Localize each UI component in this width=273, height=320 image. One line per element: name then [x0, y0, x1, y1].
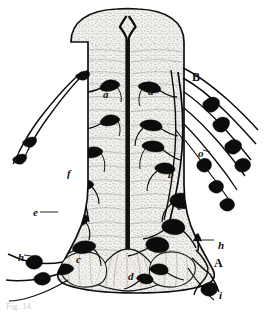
figure-label-o: o: [198, 148, 204, 159]
figure-label-A: A: [214, 257, 223, 269]
figure-container: a a B o b f e e c c h h d A i Fig. 14.: [0, 0, 273, 320]
anatomical-diagram: [0, 0, 273, 320]
figure-label-e-right: e: [177, 201, 182, 212]
figure-label-B: B: [192, 71, 200, 83]
figure-label-d: d: [128, 271, 134, 282]
figure-label-i: i: [219, 290, 222, 301]
figure-label-a-left: a: [103, 89, 109, 100]
figure-label-a-right: a: [148, 86, 154, 97]
dorsal-root-fibres-right: [183, 68, 258, 211]
figure-caption: Fig. 14.: [6, 302, 33, 311]
dorsal-root-fibres-left: [13, 70, 90, 164]
figure-label-b: b: [168, 169, 174, 180]
figure-label-c-right: c: [148, 241, 153, 252]
figure-label-h-right: h: [218, 240, 224, 251]
figure-label-c-left: c: [76, 254, 81, 265]
figure-label-h-left: h: [18, 252, 24, 263]
figure-label-f: f: [67, 168, 71, 179]
figure-label-e-left: e: [33, 207, 38, 218]
